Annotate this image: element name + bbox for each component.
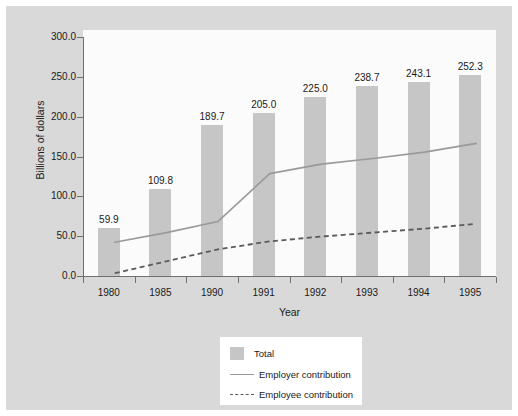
x-tick-label: 1995 <box>440 287 500 298</box>
solid-line-icon <box>230 374 254 375</box>
chart-figure: 0.050.0100.0150.0200.0250.0300.0 1980198… <box>0 0 518 416</box>
x-tick-mark <box>444 277 445 283</box>
bar-value-label: 189.7 <box>182 111 242 122</box>
legend-item-employee: Employee contribution <box>230 386 353 402</box>
y-axis-title: Billions of dollars <box>34 60 46 220</box>
y-tick-mark <box>77 37 83 38</box>
bar-value-label: 205.0 <box>234 99 294 110</box>
y-tick-mark <box>77 196 83 197</box>
chart-legend: Total Employer contribution Employee con… <box>220 337 362 405</box>
dashed-line-icon <box>230 394 254 395</box>
figure-canvas: 0.050.0100.0150.0200.0250.0300.0 1980198… <box>6 6 512 410</box>
legend-label-total: Total <box>254 348 274 359</box>
x-tick-mark <box>496 277 497 283</box>
bar <box>98 228 120 276</box>
bar <box>356 86 378 276</box>
bar <box>408 82 430 276</box>
y-tick-mark <box>77 117 83 118</box>
x-tick-mark <box>83 277 84 283</box>
total-swatch-icon <box>230 347 244 360</box>
x-tick-mark <box>393 277 394 283</box>
y-tick-mark <box>77 236 83 237</box>
bar-value-label: 109.8 <box>130 175 190 186</box>
bar <box>253 113 275 276</box>
bar <box>304 97 326 276</box>
x-tick-mark <box>135 277 136 283</box>
y-axis-line <box>83 37 84 277</box>
x-axis-title: Year <box>83 306 496 318</box>
bar <box>149 189 171 276</box>
legend-item-total: Total <box>230 345 274 361</box>
bar-value-label: 252.3 <box>440 61 500 72</box>
legend-item-employer: Employer contribution <box>230 366 351 382</box>
x-tick-mark <box>290 277 291 283</box>
x-tick-mark <box>341 277 342 283</box>
x-tick-mark <box>186 277 187 283</box>
bar <box>459 75 481 276</box>
y-tick-label: 0.0 <box>32 271 76 281</box>
x-tick-mark <box>238 277 239 283</box>
legend-label-employee: Employee contribution <box>259 389 353 400</box>
bar <box>201 125 223 276</box>
bar-value-label: 59.9 <box>79 214 139 225</box>
y-tick-mark <box>77 157 83 158</box>
bar-value-label: 225.0 <box>285 83 345 94</box>
y-tick-label: 50.0 <box>32 231 76 241</box>
plot-background <box>83 30 496 277</box>
y-tick-label: 300.0 <box>32 32 76 42</box>
legend-label-employer: Employer contribution <box>259 369 351 380</box>
y-tick-mark <box>77 77 83 78</box>
